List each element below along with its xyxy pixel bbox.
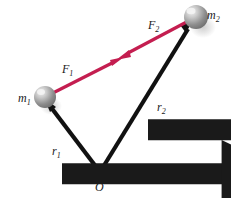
force-2-label: F2: [148, 16, 159, 32]
mass-1-symbol: m: [18, 91, 27, 105]
force-2-subscript: 2: [155, 25, 159, 34]
force-1-subscript: 1: [69, 69, 73, 78]
radius-2-subscript: 2: [162, 107, 166, 116]
mass-1-label: m1: [18, 89, 31, 105]
mass-1-subscript: 1: [27, 98, 31, 107]
radius-1-subscript: 1: [57, 151, 61, 160]
radius-2-label: r2: [157, 98, 166, 114]
force-1-label: F1: [62, 60, 73, 76]
mass-1-sphere: [34, 86, 56, 108]
radius-1-label: r1: [52, 142, 61, 158]
vector-arrow-icon: [157, 98, 231, 198]
physics-vector-diagram: m1 m2 O F1 F2: [0, 0, 231, 198]
